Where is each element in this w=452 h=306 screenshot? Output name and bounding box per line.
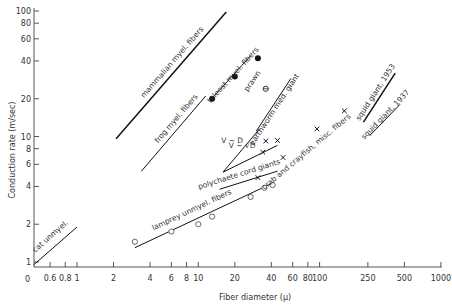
y-axis-label: Conduction rate (m/sec) — [8, 102, 17, 199]
y-tick-label: 100 — [16, 7, 31, 16]
x-tick-label: 250 — [360, 274, 375, 283]
x-tick-label: 6 — [169, 274, 174, 283]
x-tick-label: 10 — [193, 274, 203, 283]
line-label: V ~ √D — [229, 141, 256, 150]
x-marker — [263, 139, 268, 144]
x-marker — [281, 155, 286, 160]
conduction-rate-chart: 0.60.81246810204060801002505001000 12468… — [0, 0, 452, 306]
chart-svg: 0.60.81246810204060801002505001000 12468… — [0, 0, 452, 306]
y-ticks: 124681020406080100 — [16, 7, 39, 267]
y-tick-label: 20 — [21, 95, 31, 104]
line-label: mammalian myel. fibers — [139, 25, 206, 100]
line-label: lamprey unmyel. fibers — [150, 187, 233, 232]
open-circle-marker — [132, 239, 137, 244]
fit-line — [135, 182, 274, 247]
y-tick-label: 80 — [21, 19, 31, 28]
x-tick-label: 2 — [111, 274, 116, 283]
x-marker — [315, 127, 320, 132]
annotation-label: crab and crayfish, misc. fibers — [260, 112, 353, 192]
x-tick-label: 8 — [184, 274, 189, 283]
y-tick-label: 10 — [21, 133, 31, 142]
x-tick-label: 20 — [230, 274, 240, 283]
open-circle-marker — [210, 214, 215, 219]
line-label: cat unmyel. — [30, 218, 69, 254]
fit-line — [141, 96, 205, 171]
open-circle-marker — [248, 194, 253, 199]
x-tick-label: 4 — [147, 274, 152, 283]
y-tick-label: 4 — [26, 182, 31, 191]
open-circle-marker — [196, 222, 201, 227]
x-origin-label: 0 — [25, 275, 30, 284]
x-tick-label: 0.8 — [59, 274, 72, 283]
y-tick-label: 40 — [21, 57, 31, 66]
x-axis-label: Fiber diameter (μ) — [219, 293, 291, 302]
y-tick-label: 2 — [26, 220, 31, 229]
x-tick-label: 0.6 — [44, 274, 57, 283]
x-tick-label: 500 — [397, 274, 412, 283]
x-tick-label: 1 — [74, 274, 79, 283]
x-tick-label: 60 — [288, 274, 298, 283]
annotations: cat unmyel.mammalian myel. fibersfrog my… — [30, 25, 411, 255]
annotation-label: prawn — [242, 69, 263, 94]
y-tick-label: 60 — [21, 35, 31, 44]
x-tick-label: 40 — [266, 274, 276, 283]
y-tick-label: 1 — [26, 258, 31, 267]
fit-lines — [34, 12, 400, 265]
x-tick-label: 100 — [312, 274, 327, 283]
open-circle-marker — [169, 229, 174, 234]
x-tick-label: 1000 — [431, 274, 451, 283]
x-marker — [275, 138, 280, 143]
y-tick-label: 8 — [26, 145, 31, 154]
line-label: frog myel. fibers — [153, 92, 200, 145]
y-tick-label: 6 — [26, 160, 31, 169]
x-ticks: 0.60.81246810204060801002505001000 — [44, 262, 451, 283]
axes: 0.60.81246810204060801002505001000 12468… — [8, 7, 451, 302]
